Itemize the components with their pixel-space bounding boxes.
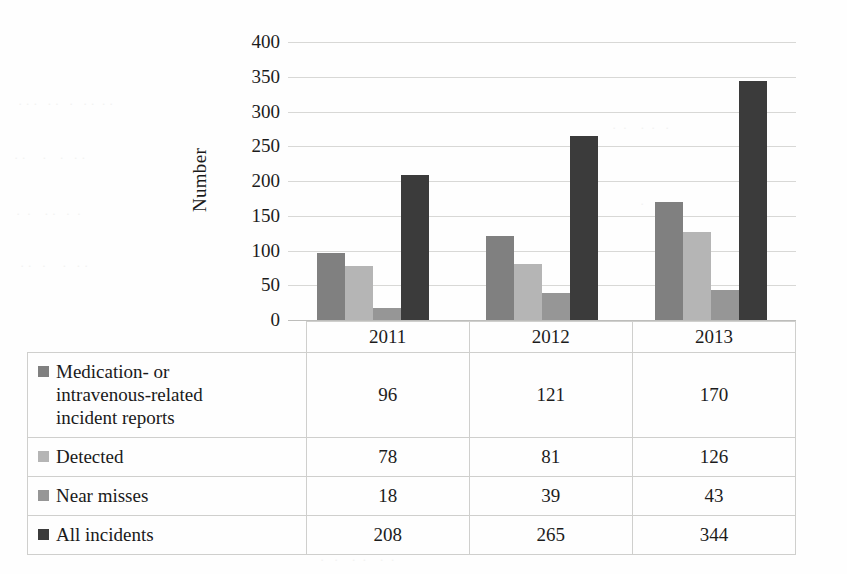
data-table: 201120122013Medication- orintravenous-re… — [27, 321, 796, 555]
legend-swatch-icon — [38, 490, 49, 501]
bar — [345, 266, 373, 320]
bar — [373, 308, 401, 321]
table-row: Near misses183943 — [28, 477, 796, 516]
table-value-cell: 18 — [306, 477, 469, 516]
table-value-cell: 208 — [306, 516, 469, 555]
scan-bleed-artifact: · · · · · · · · · · — [18, 96, 113, 112]
legend-entry-label: Medication- orintravenous-relatedinciden… — [56, 360, 256, 429]
y-axis-tick-label: 300 — [226, 102, 280, 121]
bar — [542, 293, 570, 320]
table-corner-spacer — [28, 322, 307, 353]
plot-area — [288, 42, 796, 320]
table-value-cell: 265 — [469, 516, 632, 555]
legend-swatch-icon — [38, 451, 49, 462]
category-label-2012: 2012 — [469, 322, 632, 353]
bar — [711, 290, 739, 320]
table-value-cell: 78 — [306, 438, 469, 477]
bar — [401, 175, 429, 320]
bar — [514, 264, 542, 320]
legend-swatch-icon — [38, 529, 49, 540]
legend-entry[interactable]: Medication- orintravenous-relatedinciden… — [28, 353, 307, 438]
y-axis-title: Number — [188, 120, 212, 240]
table-value-cell: 126 — [632, 438, 795, 477]
scan-bleed-artifact: · · · · · · — [14, 150, 85, 166]
chart-page: · · · · · · · · · · · · · · · · · · · · … — [0, 0, 847, 574]
table-value-cell: 170 — [632, 353, 795, 438]
bar — [570, 136, 598, 320]
legend-entry[interactable]: All incidents — [28, 516, 307, 555]
legend-entry[interactable]: Near misses — [28, 477, 307, 516]
legend-entry-label: Detected — [56, 446, 124, 467]
y-axis-tick-label: 50 — [226, 275, 280, 294]
scan-bleed-artifact: · · · · · · — [16, 206, 81, 222]
legend-entry[interactable]: Detected — [28, 438, 307, 477]
table-value-cell: 39 — [469, 477, 632, 516]
bar — [486, 236, 514, 320]
table-row: Medication- orintravenous-relatedinciden… — [28, 353, 796, 438]
bar — [683, 232, 711, 320]
table-value-cell: 43 — [632, 477, 795, 516]
scan-bleed-artifact: · · · · · · — [20, 258, 88, 274]
category-label-2011: 2011 — [306, 322, 469, 353]
table-value-cell: 81 — [469, 438, 632, 477]
bar — [317, 253, 345, 320]
legend-entry-label: Near misses — [56, 485, 148, 506]
y-axis-tick-label: 400 — [226, 32, 280, 51]
bar-group-2012 — [457, 42, 626, 320]
bar — [655, 202, 683, 320]
legend-swatch-icon — [38, 366, 49, 377]
legend-entry-label: All incidents — [56, 524, 154, 545]
table-body: 201120122013Medication- orintravenous-re… — [28, 322, 796, 555]
table-value-cell: 96 — [306, 353, 469, 438]
category-label-2013: 2013 — [632, 322, 795, 353]
table-value-cell: 344 — [632, 516, 795, 555]
bar-group-2011 — [288, 42, 457, 320]
y-axis-tick-label: 200 — [226, 171, 280, 190]
bar-group-2013 — [627, 42, 796, 320]
bar — [739, 81, 767, 320]
y-axis-tick-labels: 400350300250200150100500 — [222, 42, 280, 320]
table-row: 201120122013 — [28, 322, 796, 353]
table-value-cell: 121 — [469, 353, 632, 438]
y-axis-tick-label: 150 — [226, 206, 280, 225]
y-axis-tick-label: 350 — [226, 67, 280, 86]
y-axis-tick-label: 250 — [226, 136, 280, 155]
y-axis-tick-label: 100 — [226, 241, 280, 260]
table-row: Detected7881126 — [28, 438, 796, 477]
table-row: All incidents208265344 — [28, 516, 796, 555]
